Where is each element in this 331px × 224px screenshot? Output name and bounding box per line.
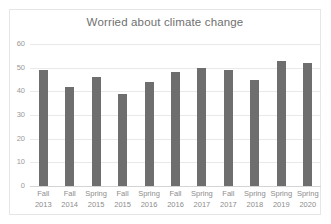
y-axis: 6050403020100 xyxy=(9,44,28,186)
y-tick-label: 20 xyxy=(17,135,25,143)
bar-spring-2017[interactable] xyxy=(197,68,206,186)
bar-slot xyxy=(109,44,135,186)
bar-slot xyxy=(56,44,82,186)
bar-fall-2013[interactable] xyxy=(39,70,48,186)
bar-fall-2017[interactable] xyxy=(224,70,233,186)
y-tick-label: 0 xyxy=(21,182,25,190)
bar-slot xyxy=(242,44,268,186)
x-tick-season: Fall xyxy=(56,189,82,200)
x-tick-season: Fall xyxy=(109,189,135,200)
x-tick-season: Spring xyxy=(268,189,294,200)
x-tick-season: Fall xyxy=(162,189,188,200)
x-tick-year: 2013 xyxy=(30,200,56,211)
x-tick-year: 2016 xyxy=(162,200,188,211)
bar-slot xyxy=(295,44,321,186)
bar-fall-2014[interactable] xyxy=(65,87,74,186)
bar-slot xyxy=(30,44,56,186)
bars-layer xyxy=(30,44,321,186)
x-tick-label: Fall2014 xyxy=(56,189,82,211)
x-tick-year: 2015 xyxy=(109,200,135,211)
x-axis: Fall2013Fall2014Spring2015Fall2015Spring… xyxy=(30,189,321,211)
x-tick-year: 2014 xyxy=(56,200,82,211)
chart-container: Worried about climate change 60504030201… xyxy=(0,0,331,224)
x-tick-year: 2017 xyxy=(189,200,215,211)
x-tick-label: Fall2017 xyxy=(215,189,241,211)
x-tick-season: Spring xyxy=(83,189,109,200)
bar-spring-2015[interactable] xyxy=(92,77,101,186)
bar-spring-2019[interactable] xyxy=(277,61,286,186)
x-tick-season: Spring xyxy=(189,189,215,200)
x-tick-label: Spring2020 xyxy=(295,189,321,211)
x-tick-season: Fall xyxy=(30,189,56,200)
y-tick-label: 50 xyxy=(17,64,25,72)
y-tick-label: 10 xyxy=(17,159,25,167)
x-tick-label: Fall2016 xyxy=(162,189,188,211)
bar-slot xyxy=(215,44,241,186)
x-tick-label: Spring2018 xyxy=(242,189,268,211)
x-tick-year: 2015 xyxy=(83,200,109,211)
x-tick-season: Spring xyxy=(136,189,162,200)
bar-fall-2015[interactable] xyxy=(118,94,127,186)
bar-slot xyxy=(189,44,215,186)
x-tick-year: 2020 xyxy=(295,200,321,211)
bar-fall-2016[interactable] xyxy=(171,72,180,186)
x-tick-label: Fall2013 xyxy=(30,189,56,211)
bar-slot xyxy=(162,44,188,186)
x-tick-year: 2016 xyxy=(136,200,162,211)
x-tick-season: Fall xyxy=(215,189,241,200)
chart-title: Worried about climate change xyxy=(9,16,321,28)
x-tick-label: Spring2019 xyxy=(268,189,294,211)
x-tick-label: Spring2016 xyxy=(136,189,162,211)
x-tick-year: 2017 xyxy=(215,200,241,211)
bar-spring-2018[interactable] xyxy=(250,80,259,187)
gridline-0 xyxy=(30,186,321,187)
y-tick-label: 60 xyxy=(17,40,25,48)
y-tick-label: 40 xyxy=(17,88,25,96)
y-tick-label: 30 xyxy=(17,111,25,119)
bar-spring-2020[interactable] xyxy=(303,63,312,186)
x-tick-year: 2019 xyxy=(268,200,294,211)
x-tick-label: Fall2015 xyxy=(109,189,135,211)
x-tick-season: Spring xyxy=(295,189,321,200)
x-tick-label: Spring2017 xyxy=(189,189,215,211)
x-tick-season: Spring xyxy=(242,189,268,200)
bar-slot xyxy=(83,44,109,186)
bar-slot xyxy=(136,44,162,186)
x-tick-year: 2018 xyxy=(242,200,268,211)
bar-slot xyxy=(268,44,294,186)
bar-spring-2016[interactable] xyxy=(145,82,154,186)
x-tick-label: Spring2015 xyxy=(83,189,109,211)
